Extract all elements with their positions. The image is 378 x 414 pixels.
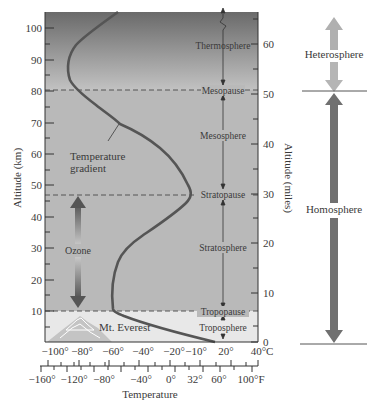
atmosphere-diagram: Temperature gradient Ozone Mt. Everest T… [0,0,378,414]
ozone-label: Ozone [65,245,92,256]
svg-text:40: 40 [263,138,275,150]
svg-text:20: 20 [31,274,43,286]
svg-text:60°: 60° [211,373,226,385]
svg-text:50: 50 [263,88,275,100]
y-axis-km-title: Altitude (km) [11,148,24,209]
svg-text:90: 90 [31,54,43,66]
svg-text:−100°: −100° [41,345,68,357]
stratopause-label: Stratopause [201,190,245,200]
svg-text:−10°: −10° [185,345,207,357]
svg-text:−80°: −80° [71,345,93,357]
svg-text:60: 60 [31,148,43,160]
x-axis-title: Temperature [122,388,178,400]
svg-text:−40°: −40° [132,345,154,357]
svg-text:100: 100 [26,22,43,34]
y-axis-miles-labels: 0 10 20 30 40 50 60 [263,38,275,348]
svg-text:20: 20 [263,237,275,249]
svg-text:−160°: −160° [28,373,55,385]
x-axis-scale [40,360,258,372]
y-axis-km-labels: 100 90 80 70 60 50 40 30 20 10 [26,22,43,317]
svg-text:30: 30 [263,188,275,200]
svg-text:10: 10 [31,305,43,317]
heterosphere-label: Heterosphere [305,48,364,60]
svg-text:−120°: −120° [60,373,87,385]
svg-text:100°F: 100°F [237,373,264,385]
svg-text:−60°: −60° [102,345,124,357]
svg-text:60: 60 [263,38,275,50]
mesopause-label: Mesopause [202,86,245,96]
svg-text:40: 40 [31,211,43,223]
svg-text:30: 30 [31,242,43,254]
svg-text:−40°: −40° [130,373,152,385]
svg-text:20°: 20° [218,345,233,357]
homosphere-label: Homosphere [306,203,362,215]
x-axis-celsius-labels: −100° −80° −60° −40° −20° −10° 20° 40°C [41,345,273,357]
tropopause-label: Tropopause [201,307,246,317]
svg-text:50: 50 [31,179,43,191]
svg-text:−20°: −20° [163,345,185,357]
svg-text:0°: 0° [166,373,176,385]
homosphere-arrow [325,93,343,343]
troposphere-label: Troposphere [199,323,247,333]
mt-everest-label: Mt. Everest [99,321,150,333]
temperature-gradient-label-2: gradient [70,162,106,174]
svg-text:80: 80 [31,85,43,97]
svg-text:70: 70 [31,117,43,129]
stratosphere-label: Stratosphere [199,243,247,253]
y-axis-miles-title: Altitude (miles) [282,143,295,213]
svg-text:10: 10 [263,287,275,299]
x-axis-fahrenheit-labels: −160° −120° −80° −40° 0° 32° 60° 100°F [28,373,264,385]
svg-text:40°C: 40°C [251,345,274,357]
svg-text:−80°: −80° [93,373,115,385]
temperature-gradient-label: Temperature [70,150,126,162]
thermosphere-label: Thermosphere [196,41,251,51]
svg-text:32°: 32° [187,373,202,385]
mesosphere-label: Mesosphere [200,131,246,141]
